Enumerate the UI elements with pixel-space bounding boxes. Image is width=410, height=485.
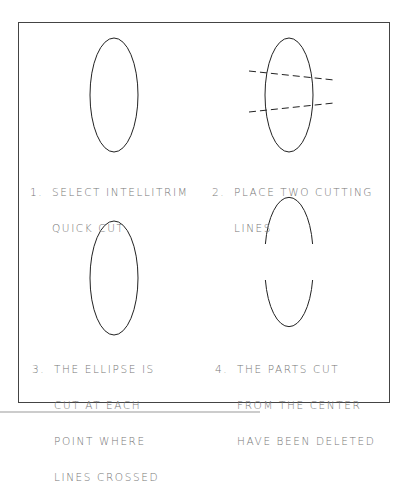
step2-caption: 2.PLACE TWO CUTTING LINES	[212, 162, 373, 246]
step1-caption: 1.SELECT INTELLITRIM QUICK CUT	[30, 162, 188, 246]
bottom-divider	[0, 411, 260, 413]
cutting-line-lower	[249, 103, 334, 112]
step1-ellipse-figure	[90, 38, 138, 152]
step2-ellipse-with-cutting-lines	[249, 38, 334, 152]
cutting-line-upper	[249, 71, 334, 80]
step4-caption: 4.THE PARTS CUT FROM THE CENTER HAVE BEE…	[215, 339, 375, 459]
